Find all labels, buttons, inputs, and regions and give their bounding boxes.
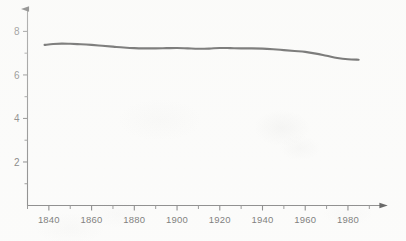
x-tick-label: 1920 <box>209 214 231 225</box>
data-line-series-1 <box>45 44 359 60</box>
x-tick-label: 1840 <box>38 214 60 225</box>
x-tick-label: 1900 <box>166 214 188 225</box>
y-tick-label: 4 <box>14 113 20 124</box>
data-series-group <box>45 44 359 60</box>
y-tick-label: 6 <box>14 70 20 81</box>
chart-canvas: 2468 18401860188019001920194019601980 <box>0 0 406 241</box>
x-tick-label: 1940 <box>252 214 274 225</box>
y-tick-label: 2 <box>14 157 20 168</box>
axes <box>28 9 387 206</box>
y-tick-label: 8 <box>14 26 20 37</box>
line-chart-figure: 2468 18401860188019001920194019601980 <box>0 0 406 241</box>
x-tick-label: 1960 <box>294 214 316 225</box>
x-tick-label: 1980 <box>337 214 359 225</box>
x-tick-label: 1880 <box>123 214 145 225</box>
x-axis-tick-labels: 18401860188019001920194019601980 <box>38 214 359 225</box>
x-tick-label: 1860 <box>81 214 103 225</box>
y-axis-tick-labels: 2468 <box>14 26 20 168</box>
